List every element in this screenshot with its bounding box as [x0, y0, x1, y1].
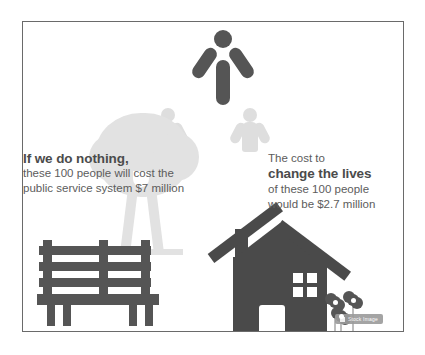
bench-seat — [37, 294, 159, 305]
bench-leg — [129, 304, 137, 326]
bench-leg — [145, 304, 153, 326]
watermark-label: Stock Image — [348, 316, 378, 322]
right-line-3: of these 100 people — [268, 182, 403, 197]
right-line-4: would be $2.7 million — [268, 197, 403, 212]
flowers-illustration — [329, 292, 369, 332]
bench-slat — [39, 246, 151, 255]
ghost-head — [243, 108, 257, 122]
right-line-1: The cost to — [268, 151, 403, 166]
person-right-arm — [227, 45, 257, 80]
left-line-2: these 100 people will cost the — [23, 166, 213, 181]
left-line-3: public service system $7 million — [23, 181, 213, 196]
person-left-arm — [190, 45, 220, 80]
person-body — [216, 60, 230, 105]
house-window — [293, 273, 317, 297]
left-heading: If we do nothing, — [23, 151, 213, 166]
ghost-body — [242, 122, 258, 152]
faded-person-right-icon — [233, 108, 267, 152]
bench-leg — [63, 304, 71, 326]
flower-center — [333, 300, 338, 305]
right-line-2: change the lives — [268, 166, 403, 182]
house-door — [259, 305, 285, 332]
person-head — [214, 30, 232, 48]
park-bench-illustration — [37, 240, 165, 326]
flower-center — [351, 298, 356, 303]
bench-leg — [47, 304, 55, 326]
person-arms-raised-icon — [193, 30, 253, 105]
window-mullion-horizontal — [293, 283, 317, 287]
right-text-block: The cost to change the lives of these 10… — [268, 151, 403, 212]
left-text-block: If we do nothing, these 100 people will … — [23, 151, 213, 196]
bench-slat — [39, 262, 151, 271]
bench-slat — [39, 278, 151, 287]
flower-center — [339, 314, 344, 319]
slide-frame: If we do nothing, these 100 people will … — [22, 21, 404, 332]
